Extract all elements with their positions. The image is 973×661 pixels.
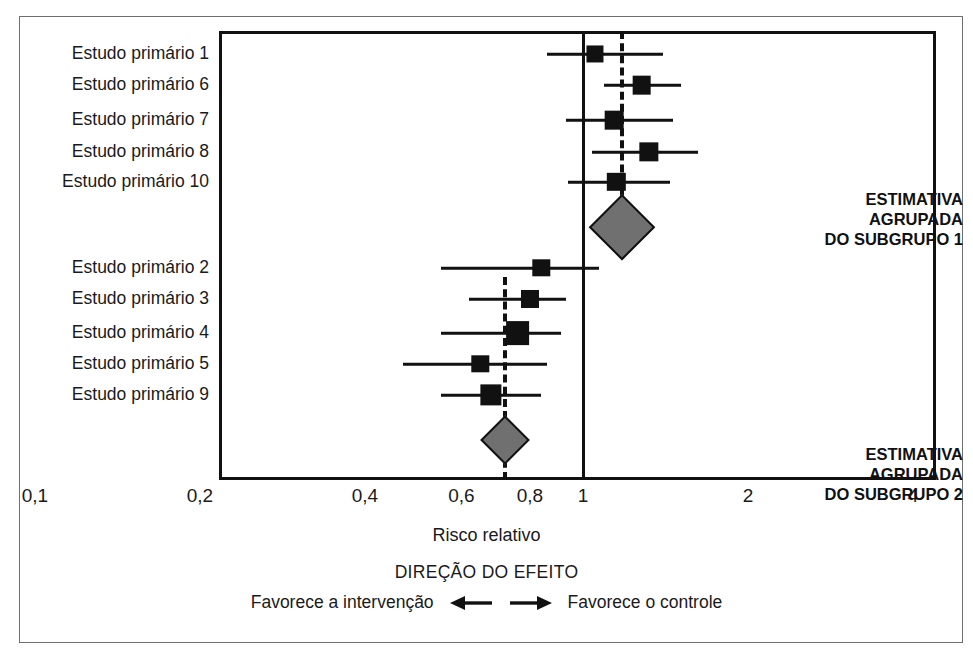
- study-row-label: Estudo primário 1: [72, 45, 209, 63]
- study-row-label: Estudo primário 3: [72, 290, 209, 308]
- right-arrow-icon: [508, 593, 554, 613]
- x-axis-tick-label: 2: [743, 485, 754, 507]
- favors-intervention-label: Favorece a intervenção: [251, 592, 434, 613]
- plot-area: [219, 31, 936, 480]
- confidence-interval-line: [441, 332, 561, 335]
- pooled-label-subgroup-2: ESTIMATIVAAGRUPADADO SUBGRUPO 2: [825, 444, 963, 504]
- pooled-estimate-diamond: [589, 194, 655, 260]
- study-effect-marker: [472, 355, 489, 372]
- pooled-label-line: DO SUBGRUPO 1: [825, 229, 963, 249]
- pooled-label-line: ESTIMATIVA: [825, 189, 963, 209]
- left-arrow-icon: [448, 593, 494, 613]
- pooled-label-line: DO SUBGRUPO 2: [825, 484, 963, 504]
- study-row-label: Estudo primário 2: [72, 259, 209, 277]
- study-row-label: Estudo primário 4: [72, 324, 209, 342]
- x-axis-tick-label: 0,4: [352, 485, 378, 507]
- study-effect-marker: [607, 173, 625, 191]
- pooled-label-line: AGRUPADA: [825, 209, 963, 229]
- direction-of-effect-row: Favorece a intervenção Favorece o contro…: [0, 592, 973, 613]
- study-effect-marker: [533, 259, 550, 276]
- x-axis-tick-label: 0,8: [517, 485, 543, 507]
- study-row-label: Estudo primário 7: [72, 111, 209, 129]
- forest-plot-figure: Estudo primário 1Estudo primário 6Estudo…: [0, 0, 973, 661]
- confidence-interval-line: [469, 298, 566, 301]
- x-axis-label: Risco relativo: [0, 525, 973, 546]
- pooled-label-line: AGRUPADA: [825, 464, 963, 484]
- x-axis-tick-label: 0,2: [187, 485, 213, 507]
- study-row-label: Estudo primário 9: [72, 386, 209, 404]
- confidence-interval-line: [547, 53, 663, 56]
- study-row-label: Estudo primário 10: [62, 173, 209, 191]
- study-effect-marker: [481, 384, 502, 405]
- pooled-label-line: ESTIMATIVA: [825, 444, 963, 464]
- study-effect-marker: [506, 321, 530, 345]
- x-axis-tick-label: 1: [578, 485, 589, 507]
- confidence-interval-line: [441, 267, 599, 270]
- x-axis-tick-label: 0,1: [22, 485, 48, 507]
- favors-control-label: Favorece o controle: [568, 592, 723, 613]
- study-effect-marker: [521, 290, 539, 308]
- study-label-column: Estudo primário 1Estudo primário 6Estudo…: [19, 31, 219, 480]
- study-row-label: Estudo primário 5: [72, 355, 209, 373]
- study-effect-marker: [586, 45, 603, 62]
- pooled-label-subgroup-1: ESTIMATIVAAGRUPADADO SUBGRUPO 1: [825, 189, 963, 249]
- x-axis-tick-label: 0,6: [448, 485, 474, 507]
- study-effect-marker: [605, 111, 624, 130]
- study-row-label: Estudo primário 8: [72, 143, 209, 161]
- study-effect-marker: [632, 76, 651, 95]
- null-effect-line: [582, 31, 585, 480]
- pooled-estimate-diamond: [480, 415, 529, 464]
- study-row-label: Estudo primário 6: [72, 76, 209, 94]
- study-effect-marker: [639, 142, 658, 161]
- direction-of-effect-title: DIREÇÃO DO EFEITO: [0, 562, 973, 583]
